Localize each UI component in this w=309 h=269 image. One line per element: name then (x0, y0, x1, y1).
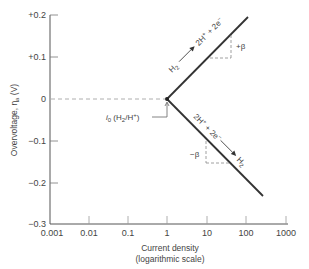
reaction-arrow-icon (221, 140, 233, 152)
svg-text:2H+ + 2e−: 2H+ + 2e− (193, 15, 225, 47)
y-tick-label: +0.2 (28, 10, 46, 20)
y-tick-label: +0.1 (28, 52, 46, 62)
y-tick-label: −0.1 (28, 136, 46, 146)
exchange-current-label: i0 (H2/H+) (106, 112, 140, 123)
minus-beta-triangle (206, 141, 229, 163)
exchange-current-point (165, 97, 169, 101)
svg-text:H2: H2 (234, 155, 248, 169)
reaction-arrow-icon (179, 50, 191, 62)
x-ticks (89, 216, 286, 224)
x-tick-label: 100 (238, 228, 253, 238)
x-axis-label: Current density (141, 243, 199, 253)
x-tick-label: 1000 (276, 228, 296, 238)
y-tick-label: −0.2 (28, 178, 46, 188)
x-tick-label: 0.1 (122, 228, 135, 238)
exchange-current-arrow (152, 102, 169, 117)
svg-text:H2: H2 (167, 61, 181, 75)
plus-beta-label: +β (236, 42, 246, 51)
tafel-plot: +0.2 +0.1 0 −0.1 −0.2 −0.3 0.001 0.01 0.… (0, 0, 309, 269)
y-tick-labels: +0.2 +0.1 0 −0.1 −0.2 −0.3 (28, 10, 46, 229)
y-axis-label: Overvoltage, ηa (V) (9, 84, 20, 157)
x-tick-label: 1 (164, 228, 169, 238)
reduction-line (167, 99, 263, 196)
reduction-reaction-label: 2H+ + 2e− H2 (191, 111, 249, 169)
oxidation-reaction-label: H2 2H+ + 2e− (166, 15, 226, 75)
x-tick-label: 10 (202, 228, 212, 238)
x-tick-labels: 0.001 0.01 0.1 1 10 100 1000 (41, 228, 296, 238)
x-tick-label: 0.001 (41, 228, 64, 238)
minus-beta-label: −β (190, 150, 200, 159)
x-tick-label: 0.01 (80, 228, 98, 238)
y-tick-label: 0 (41, 94, 46, 104)
x-axis-sublabel: (logarithmic scale) (136, 254, 205, 264)
